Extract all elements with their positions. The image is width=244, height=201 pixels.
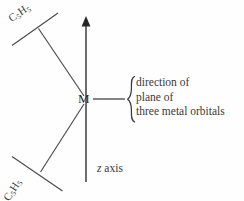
annotation-line-2: plane of xyxy=(136,90,225,105)
annotation-line-1: direction of xyxy=(136,75,225,90)
z-axis-label: z axis xyxy=(97,162,123,174)
bond-metal-to-bottom-ring xyxy=(41,104,85,172)
bond-metal-to-top-ring xyxy=(39,29,85,97)
annotation-brace-icon xyxy=(128,77,135,122)
orbital-plane-annotation: direction of plane of three metal orbita… xyxy=(136,75,225,119)
z-axis-symbol: z xyxy=(97,162,101,174)
z-axis-word: axis xyxy=(104,162,123,174)
annotation-line-3: three metal orbitals xyxy=(136,104,225,119)
metal-center-label: M xyxy=(78,91,90,107)
z-axis-arrowhead-icon xyxy=(82,16,91,27)
figure-canvas: C5H5 C5H5 M z axis direction of plane of… xyxy=(0,0,244,201)
